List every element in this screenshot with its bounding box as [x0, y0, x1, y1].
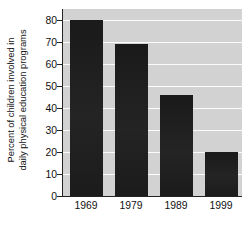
y-tick-label-50: 50	[34, 81, 57, 92]
y-tick-label-0: 0	[34, 191, 57, 202]
x-tick-label-1979: 1979	[119, 200, 142, 211]
y-tick-label-40: 40	[34, 103, 57, 114]
y-tick-label-10: 10	[34, 169, 57, 180]
y-tick-label-70: 70	[34, 37, 57, 48]
y-axis-title-line-1: Percent of children involved in	[5, 29, 17, 170]
plot-area	[63, 9, 242, 196]
y-tick-label-80: 80	[34, 15, 57, 26]
x-tick-label-1999: 1999	[209, 200, 232, 211]
y-axis-line	[62, 9, 63, 197]
bar-1979	[115, 44, 148, 196]
x-axis-tick-labels: 1969 1979 1989 1999	[63, 200, 242, 220]
bar-1989	[160, 95, 193, 196]
y-axis-title-line-2: daily physical education programs	[17, 29, 29, 170]
x-tick-label-1969: 1969	[74, 200, 97, 211]
y-axis-tick-labels: 0 10 20 30 40 50 60 70 80	[34, 0, 57, 237]
bar-chart: Percent of children involved in daily ph…	[0, 0, 249, 237]
bar-1969	[70, 20, 103, 196]
x-axis-line	[57, 196, 242, 197]
x-tick-label-1989: 1989	[164, 200, 187, 211]
y-tick-label-30: 30	[34, 125, 57, 136]
y-tick-label-60: 60	[34, 59, 57, 70]
bar-1999	[205, 152, 238, 196]
y-axis-title: Percent of children involved in daily ph…	[0, 0, 34, 200]
y-tick-label-20: 20	[34, 147, 57, 158]
